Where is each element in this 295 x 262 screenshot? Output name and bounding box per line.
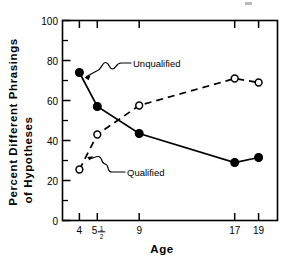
y-tick-label-40: 40 [47,136,59,147]
data-point-unqualified-age19 [255,154,263,162]
y-tick-label-60: 60 [47,96,59,107]
data-point-unqualified-age9 [135,130,143,138]
x-tick-label-5-and-half: 5 1 2 [92,225,105,240]
data-point-qualified-age19 [255,79,262,86]
x-tick-label-19: 19 [253,225,265,236]
x-axis-ticks-bottom [79,213,258,221]
annotation-leader-unqualified [87,63,132,77]
y-axis-title-line1: Percent Different Phrasings [7,38,19,206]
series-markers-unqualified [76,69,263,167]
annotation-label-qualified: Qualified [127,167,165,178]
x-axis-title: Age [150,243,174,255]
y-tick-label-20: 20 [47,176,59,187]
data-point-qualified-age9 [136,102,143,109]
annotation-unqualified: Unqualified [85,58,181,81]
x-tick-label-9: 9 [136,225,142,236]
data-point-unqualified-age5h [93,103,101,111]
series-line-unqualified [79,73,258,163]
y-tick-label-0: 0 [52,216,58,227]
annotation-leader-qualified [89,156,125,172]
y-tick-label-80: 80 [47,56,59,67]
chart-figure: 100 80 60 40 20 0 4 5 1 2 9 17 19 Age Pe… [0,0,295,262]
y-axis-minor-ticks [63,41,69,201]
annotation-qualified: Qualified [87,156,164,177]
data-point-qualified-age17 [231,75,238,82]
plot-frame [63,21,278,221]
data-point-qualified-age4 [76,166,83,173]
line-chart: 100 80 60 40 20 0 4 5 1 2 9 17 19 Age Pe… [0,0,295,262]
data-point-qualified-age5h [94,131,101,138]
x-tick-fraction-denominator: 2 [100,233,104,240]
annotation-label-unqualified: Unqualified [133,58,181,69]
scan-artifact-mark [245,2,252,5]
data-point-unqualified-age17 [231,159,239,167]
x-tick-fraction-numerator: 1 [100,225,104,232]
x-tick-label-4: 4 [77,225,83,236]
y-axis-title-line2: of Hypotheses [22,116,34,203]
x-tick-label-5-whole: 5 [92,225,98,236]
x-axis-ticks-top [79,21,258,29]
series-line-qualified [79,79,258,170]
data-point-unqualified-age4 [76,69,84,77]
x-tick-label-17: 17 [229,225,241,236]
y-tick-label-100: 100 [41,16,58,27]
